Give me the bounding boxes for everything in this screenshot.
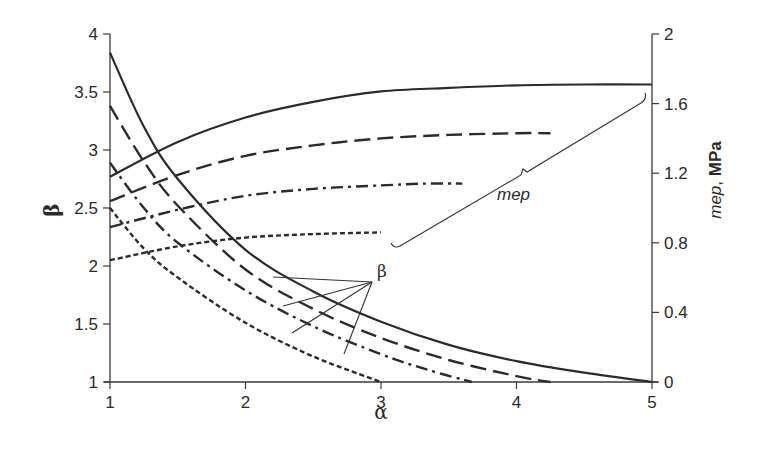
x-axis-title: α bbox=[374, 400, 388, 424]
x-tick-label: 2 bbox=[241, 393, 250, 412]
mep-brace bbox=[391, 93, 646, 247]
axes: 1234511.522.533.5400.40.81.21.62 bbox=[74, 25, 687, 412]
series-mep-dotted bbox=[110, 232, 381, 260]
right-axis-title-mep: mep bbox=[706, 186, 725, 219]
right-y-tick-label: 1.2 bbox=[664, 164, 688, 183]
y-tick-label: 3.5 bbox=[74, 83, 98, 102]
right-y-tick-label: 2 bbox=[664, 25, 673, 44]
right-y-tick-label: 0.8 bbox=[664, 234, 688, 253]
series-dash-dot bbox=[110, 163, 472, 382]
series-group bbox=[110, 53, 652, 382]
beta-leader-lines bbox=[273, 277, 372, 354]
x-tick-label: 1 bbox=[105, 393, 114, 412]
mep-annotation: mep bbox=[497, 185, 530, 204]
chart-canvas: 1234511.522.533.5400.40.81.21.62 β mep α… bbox=[0, 0, 757, 454]
y-tick-label: 1.5 bbox=[74, 315, 98, 334]
y-tick-label: 1 bbox=[89, 373, 98, 392]
right-axis-title-unit: MPa bbox=[706, 141, 725, 177]
series-long-dash bbox=[110, 106, 550, 382]
y-tick-label: 3 bbox=[89, 141, 98, 160]
y-tick-label: 2 bbox=[89, 257, 98, 276]
x-tick-label: 5 bbox=[647, 393, 656, 412]
y-tick-label: 4 bbox=[89, 25, 98, 44]
right-y-tick-label: 0.4 bbox=[664, 303, 688, 322]
beta-annotation: β bbox=[377, 261, 387, 281]
annotations: β mep α β mep, MPa bbox=[40, 93, 725, 424]
y-axis-title: β bbox=[40, 203, 64, 216]
x-tick-label: 4 bbox=[512, 393, 521, 412]
right-y-tick-label: 1.6 bbox=[664, 95, 688, 114]
series-solid bbox=[110, 53, 652, 382]
series-mep-solid bbox=[110, 84, 652, 176]
right-axis-title-sep: , bbox=[706, 176, 725, 185]
right-y-tick-label: 0 bbox=[664, 373, 673, 392]
right-axis-title: mep, MPa bbox=[706, 141, 725, 219]
y-tick-label: 2.5 bbox=[74, 199, 98, 218]
